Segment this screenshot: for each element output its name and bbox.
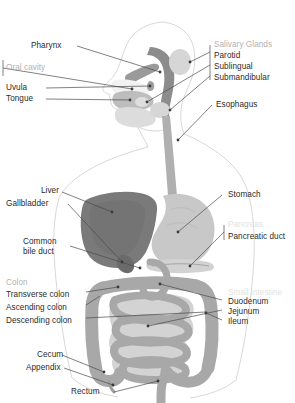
label-liver: Liver <box>41 186 59 196</box>
stomach-shape <box>152 194 215 267</box>
mandible-shape <box>115 107 156 127</box>
label-common-bile-duct: Common bile duct <box>23 237 69 256</box>
label-transverse-colon: Transverse colon <box>6 290 69 300</box>
label-sublingual: Sublingual <box>214 62 253 72</box>
label-appendix: Appendix <box>26 363 61 373</box>
label-submandibular: Submandibular <box>214 73 270 83</box>
digestive-system-figure: Pharynx Oral cavity Uvula Tongue Salivar… <box>0 0 295 403</box>
label-ileum: Ileum <box>228 317 248 327</box>
label-descending-colon: Descending colon <box>6 316 72 326</box>
label-pharynx: Pharynx <box>31 41 61 51</box>
parotid-gland-shape <box>169 49 191 75</box>
label-pancreatic-duct: Pancreatic duct <box>228 232 285 242</box>
label-cecum: Cecum <box>37 350 63 360</box>
label-group-pancreas: Pancreas <box>228 220 263 230</box>
label-tongue: Tongue <box>6 94 33 104</box>
label-parotid: Parotid <box>214 51 240 61</box>
submandibular-gland-shape <box>150 102 170 118</box>
label-group-colon: Colon <box>6 278 28 288</box>
label-rectum: Rectum <box>71 387 100 397</box>
label-group-oral-cavity: Oral cavity <box>6 63 45 73</box>
descending-colon-shape <box>196 286 212 368</box>
label-gallbladder: Gallbladder <box>6 199 48 209</box>
label-jejunum: Jejunum <box>228 307 259 317</box>
label-esophagus: Esophagus <box>216 100 257 110</box>
esophagus-shape <box>162 116 177 196</box>
label-ascending-colon: Ascending colon <box>6 303 67 313</box>
label-group-salivary-glands: Salivary Glands <box>214 40 272 50</box>
label-duodenum: Duodenum <box>228 297 268 307</box>
label-uvula: Uvula <box>6 83 27 93</box>
label-stomach: Stomach <box>228 190 261 200</box>
